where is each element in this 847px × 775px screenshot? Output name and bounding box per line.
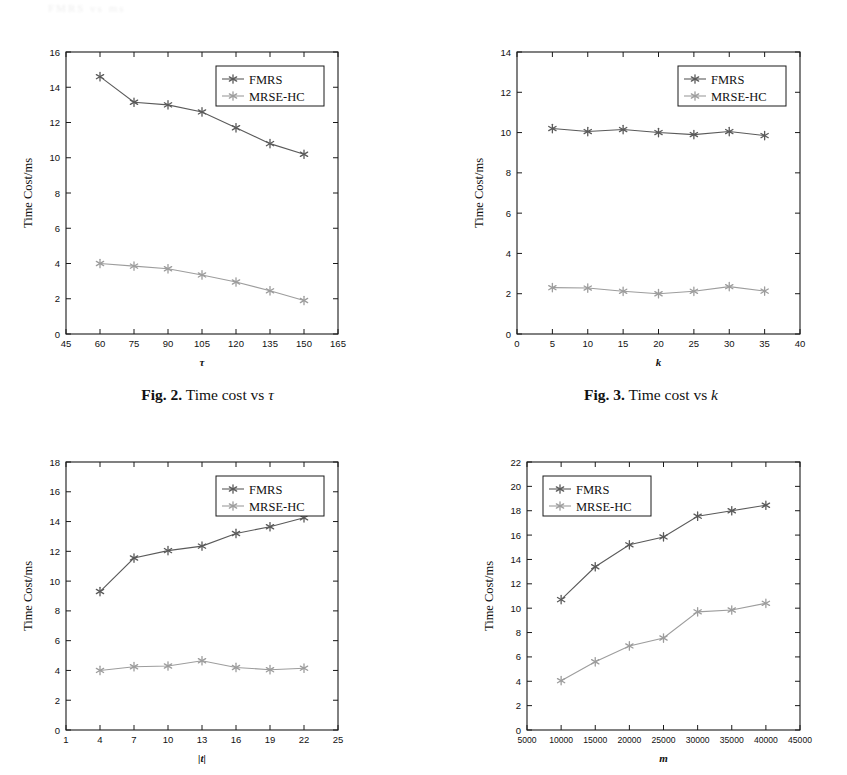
- y-tick-label: 0: [516, 725, 521, 736]
- figure-fig4: 147101316192225024681012141618|t|Time Co…: [8, 440, 423, 775]
- x-tick-label: 165: [330, 338, 346, 349]
- y-tick-label: 6: [506, 208, 511, 219]
- y-tick-label: 16: [49, 486, 60, 497]
- x-tick-label: 35: [759, 338, 770, 349]
- x-tick-label: 135: [262, 338, 278, 349]
- figure-page: FMRS vs ms 45607590105120135150165024681…: [0, 0, 847, 775]
- y-tick-label: 14: [49, 516, 60, 527]
- y-tick-label: 2: [516, 700, 521, 711]
- x-axis-label: τ: [200, 356, 206, 368]
- y-tick-label: 16: [510, 530, 521, 541]
- y-tick-label: 10: [49, 152, 60, 163]
- legend-label-mrse-hc: MRSE-HC: [711, 90, 767, 104]
- y-tick-label: 12: [500, 87, 511, 98]
- y-tick-label: 6: [55, 223, 60, 234]
- y-axis-label: Time Cost/ms: [21, 561, 35, 631]
- x-tick-label: 4: [97, 734, 102, 745]
- chart-fig5: 5000100001500020000250003000035000400004…: [455, 440, 847, 775]
- plot-area-fig2: 456075901051201351501650246810121416τTim…: [8, 34, 423, 379]
- legend-label-mrse-hc: MRSE-HC: [249, 90, 305, 104]
- x-tick-label: 15: [618, 338, 629, 349]
- y-tick-label: 14: [510, 554, 521, 565]
- x-tick-label: 15000: [583, 735, 607, 745]
- legend-label-fmrs: FMRS: [711, 73, 744, 87]
- y-axis-label: Time Cost/ms: [21, 158, 35, 228]
- x-tick-label: 75: [129, 338, 140, 349]
- y-tick-label: 2: [506, 288, 511, 299]
- y-tick-label: 4: [55, 665, 60, 676]
- y-tick-label: 4: [55, 258, 60, 269]
- y-tick-label: 10: [510, 603, 521, 614]
- caption-symbol: τ: [268, 386, 274, 403]
- x-tick-label: 10000: [549, 735, 573, 745]
- x-tick-label: 25: [333, 734, 344, 745]
- y-axis-label: Time Cost/ms: [482, 561, 496, 631]
- x-tick-label: 120: [228, 338, 244, 349]
- y-tick-label: 10: [49, 576, 60, 587]
- x-tick-label: 25000: [652, 735, 676, 745]
- x-tick-label: 19: [265, 734, 276, 745]
- y-tick-label: 6: [55, 635, 60, 646]
- caption-symbol: k: [711, 386, 718, 403]
- caption-fig3: Fig. 3. Time cost vs k: [455, 386, 847, 404]
- x-tick-label: 5: [550, 338, 555, 349]
- chart-fig4: 147101316192225024681012141618|t|Time Co…: [8, 440, 408, 775]
- chart-fig3: 051015202530354002468101214kTime Cost/ms…: [455, 34, 847, 379]
- y-tick-label: 14: [500, 47, 511, 58]
- x-tick-label: 20000: [617, 735, 641, 745]
- x-tick-label: 90: [163, 338, 174, 349]
- x-tick-label: 40: [795, 338, 806, 349]
- x-tick-label: 30000: [686, 735, 710, 745]
- x-tick-label: 25: [689, 338, 700, 349]
- y-tick-label: 0: [55, 329, 60, 340]
- y-tick-label: 18: [49, 457, 60, 468]
- x-tick-label: 45000: [788, 735, 812, 745]
- y-tick-label: 14: [49, 82, 60, 93]
- y-tick-label: 8: [506, 167, 511, 178]
- x-tick-label: 30: [724, 338, 735, 349]
- x-tick-label: 60: [95, 338, 106, 349]
- y-tick-label: 12: [49, 546, 60, 557]
- x-tick-label: 7: [131, 734, 136, 745]
- x-axis-label: |t|: [198, 752, 206, 764]
- y-tick-label: 16: [49, 47, 60, 58]
- y-tick-label: 8: [55, 188, 60, 199]
- x-tick-label: 150: [296, 338, 312, 349]
- figure-fig5: 5000100001500020000250003000035000400004…: [455, 440, 847, 775]
- legend-label-mrse-hc: MRSE-HC: [576, 500, 632, 514]
- x-tick-label: 13: [197, 734, 208, 745]
- x-tick-label: 16: [231, 734, 242, 745]
- x-tick-label: 20: [653, 338, 664, 349]
- x-tick-label: 1: [63, 734, 68, 745]
- y-tick-label: 18: [510, 505, 521, 516]
- x-axis-label: k: [656, 356, 662, 368]
- x-tick-label: 10: [163, 734, 174, 745]
- x-axis-label: m: [659, 752, 668, 764]
- y-tick-label: 10: [500, 127, 511, 138]
- y-axis-label: Time Cost/ms: [472, 158, 486, 228]
- caption-number: Fig. 3.: [584, 386, 625, 403]
- plot-area-fig5: 5000100001500020000250003000035000400004…: [455, 440, 847, 775]
- y-tick-label: 4: [506, 248, 511, 259]
- legend-label-fmrs: FMRS: [576, 483, 609, 497]
- y-tick-label: 12: [49, 117, 60, 128]
- y-tick-label: 4: [516, 676, 521, 687]
- y-tick-label: 22: [510, 457, 521, 468]
- plot-area-fig4: 147101316192225024681012141618|t|Time Co…: [8, 440, 423, 775]
- x-tick-label: 40000: [754, 735, 778, 745]
- y-tick-label: 20: [510, 481, 521, 492]
- plot-area-fig3: 051015202530354002468101214kTime Cost/ms…: [455, 34, 847, 379]
- y-tick-label: 6: [516, 651, 521, 662]
- figure-fig3: 051015202530354002468101214kTime Cost/ms…: [455, 34, 847, 414]
- y-tick-label: 2: [55, 695, 60, 706]
- cut-off-header-text: FMRS vs ms: [48, 2, 278, 14]
- x-tick-label: 105: [194, 338, 210, 349]
- x-tick-label: 35000: [720, 735, 744, 745]
- caption-text: Time cost vs: [186, 386, 265, 403]
- y-tick-label: 2: [55, 293, 60, 304]
- caption-fig2: Fig. 2. Time cost vs τ: [0, 386, 415, 404]
- figure-fig2: 456075901051201351501650246810121416τTim…: [8, 34, 423, 414]
- y-tick-label: 0: [55, 725, 60, 736]
- x-tick-label: 22: [299, 734, 310, 745]
- caption-number: Fig. 2.: [141, 386, 182, 403]
